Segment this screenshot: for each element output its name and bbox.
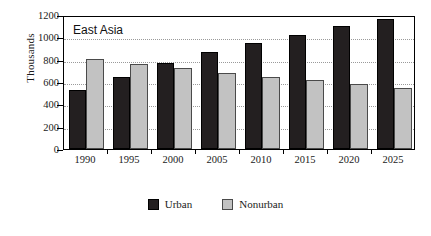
x-axis-tick-mark (107, 150, 108, 154)
bar-nonurban-2005 (218, 73, 236, 149)
bar-nonurban-2015 (306, 80, 324, 149)
x-axis-tick-mark (195, 150, 196, 154)
y-axis-tick-label: 1000 (19, 33, 59, 43)
bar-nonurban-1990 (86, 59, 104, 149)
bar-urban-1990 (69, 90, 87, 149)
bar-urban-2000 (157, 63, 175, 149)
bar-urban-2010 (245, 43, 263, 149)
y-axis-tick-mark (57, 150, 63, 151)
urban-swatch-icon (148, 199, 159, 210)
bar-nonurban-2000 (174, 68, 192, 149)
bar-nonurban-2020 (350, 84, 368, 149)
x-axis-tick-mark (327, 150, 328, 154)
bar-urban-1995 (113, 77, 131, 149)
x-axis-tick-mark (371, 150, 372, 154)
x-axis-tick-mark (239, 150, 240, 154)
nonurban-swatch-icon (222, 199, 233, 210)
bar-urban-2015 (289, 35, 307, 149)
bar-urban-2025 (377, 19, 395, 149)
plot-area: East Asia (63, 16, 415, 150)
legend-label: Nonurban (239, 198, 283, 210)
x-axis-tick-mark (151, 150, 152, 154)
chart-title: East Asia (73, 23, 123, 37)
y-axis-tick-label: 800 (19, 56, 59, 66)
bar-nonurban-2010 (262, 77, 280, 149)
y-axis-tick-label: 200 (19, 123, 59, 133)
y-axis-tick-label: 400 (19, 100, 59, 110)
chart-legend: UrbanNonurban (0, 198, 431, 210)
x-axis-tick-label: 2025 (363, 154, 423, 165)
x-axis-tick-mark (283, 150, 284, 154)
legend-item-nonurban: Nonurban (222, 198, 283, 210)
legend-label: Urban (165, 198, 193, 210)
legend-item-urban: Urban (148, 198, 193, 210)
y-axis-tick-label: 1200 (19, 11, 59, 21)
bar-nonurban-2025 (394, 88, 412, 149)
y-axis-tick-label: 600 (19, 78, 59, 88)
bar-nonurban-1995 (130, 64, 148, 149)
bar-chart-figure: Thousands 020040060080010001200 East Asi… (0, 0, 431, 236)
bar-urban-2020 (333, 26, 351, 149)
bar-urban-2005 (201, 52, 219, 149)
y-axis-tick-label: 0 (19, 145, 59, 155)
